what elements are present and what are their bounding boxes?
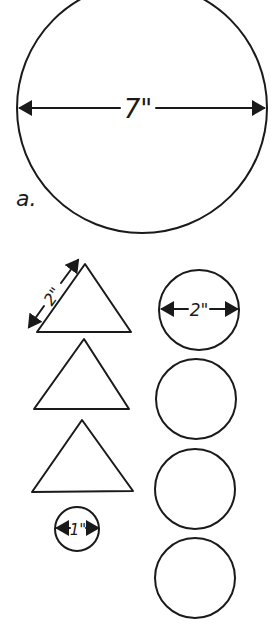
triangle-3 bbox=[32, 420, 133, 492]
circle-2in-1: 2" bbox=[159, 270, 239, 350]
triangle-2 bbox=[34, 339, 129, 409]
triangle-1: 2" bbox=[29, 260, 131, 332]
big-circle-7in: 7" bbox=[17, 0, 267, 233]
side-arrow-up bbox=[61, 260, 78, 283]
circle-2in-3 bbox=[155, 449, 235, 529]
diameter-label: 2" bbox=[190, 300, 209, 320]
figure-label-a: a. bbox=[16, 186, 36, 211]
circle-2in-4 bbox=[155, 538, 235, 618]
small-circle-1in: 1" bbox=[55, 507, 99, 551]
small-diameter-label: 1" bbox=[70, 521, 86, 539]
diameter-label: 7" bbox=[124, 94, 153, 124]
pattern-diagram: 7" a. 2" 1" 2" bbox=[0, 0, 278, 624]
side-label: 2" bbox=[40, 284, 66, 309]
circle-2in-2 bbox=[156, 359, 236, 439]
